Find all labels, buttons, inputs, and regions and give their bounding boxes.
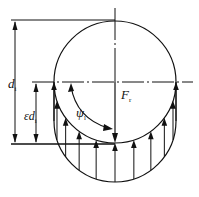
- load-arrow-head: [162, 118, 168, 126]
- load-zone-arrow-top: [34, 83, 39, 92]
- angle-label: ψl: [76, 105, 86, 122]
- load-zone-arrow-bottom: [34, 134, 39, 143]
- load-arrow-head: [63, 118, 69, 126]
- diameter-arrow-bottom: [13, 134, 18, 143]
- load-arrow-head: [51, 82, 57, 90]
- bearing-load-diagram: di εdi ψl Fr: [0, 0, 199, 197]
- diameter-arrow-top: [13, 21, 18, 30]
- force-label: Fr: [120, 87, 132, 104]
- load-zone-label: εdi: [24, 109, 37, 125]
- angle-arc-arrow-start: [68, 83, 74, 92]
- radial-force-arrowhead: [112, 133, 118, 143]
- load-arrow-head: [173, 82, 179, 90]
- angle-arc-arrow-end: [103, 124, 113, 131]
